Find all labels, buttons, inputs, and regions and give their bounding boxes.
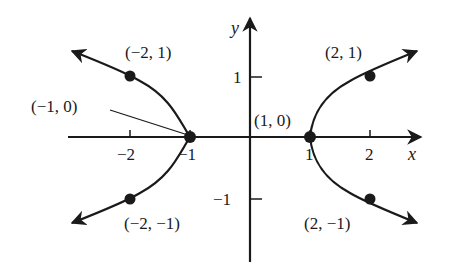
point-1-0: [304, 131, 316, 143]
y-axis-label: y: [229, 18, 239, 38]
point-neg1-0: [184, 131, 196, 143]
y-tick-label-1: 1: [233, 68, 242, 87]
point-2-neg1: [365, 194, 376, 205]
label-neg2-neg1: (−2, −1): [124, 214, 180, 233]
x-tick-label-2: 2: [365, 145, 374, 164]
graph-figure: y x −2 −1 1 2 1 −1: [0, 0, 450, 278]
x-axis-label: x: [407, 144, 416, 164]
point-neg2-1: [125, 71, 136, 82]
point-2-1: [365, 71, 376, 82]
label-2-neg1: (2, −1): [304, 214, 350, 233]
point-neg2-neg1: [125, 194, 136, 205]
label-2-1: (2, 1): [325, 43, 362, 62]
x-tick-label-neg2: −2: [117, 145, 135, 164]
label-neg2-1: (−2, 1): [125, 43, 171, 62]
y-tick-label-neg1: −1: [213, 190, 231, 209]
label-neg1-0: (−1, 0): [31, 97, 77, 116]
label-1-0: (1, 0): [254, 111, 291, 130]
